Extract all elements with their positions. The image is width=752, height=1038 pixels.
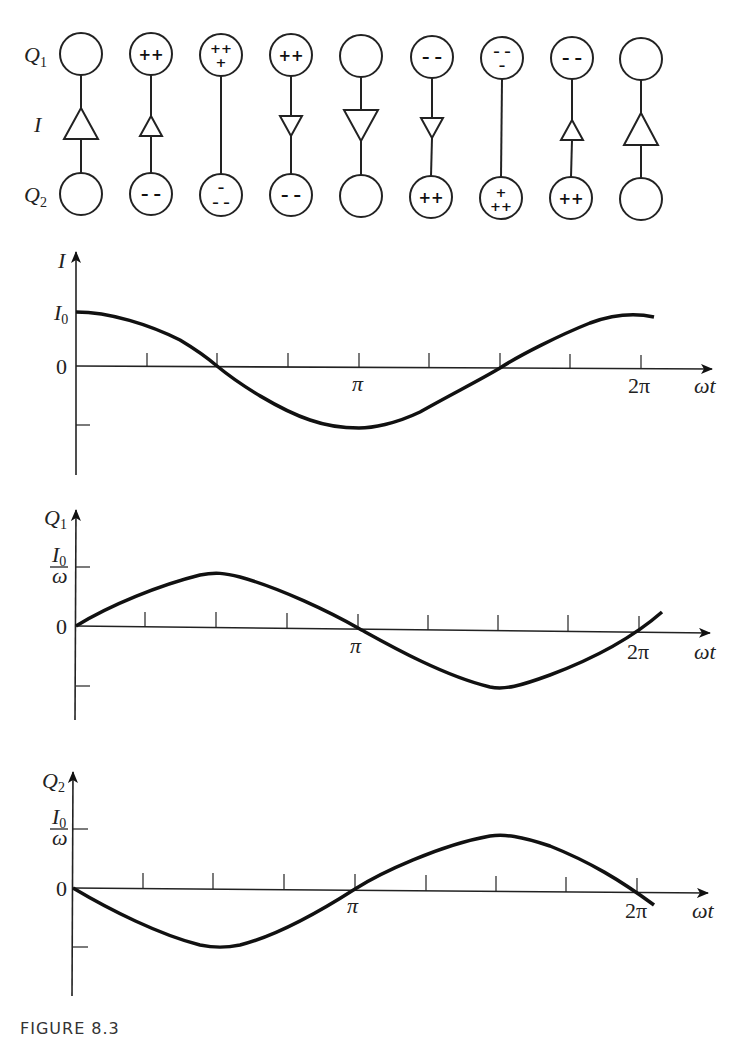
x-tick-2pi: 2π bbox=[625, 898, 647, 923]
q2-charge-col2: – – bbox=[141, 185, 161, 203]
x-axis-label: ωt bbox=[694, 373, 717, 398]
plot-q2: Q2 I0 ω 0 π 2π ωt bbox=[42, 768, 715, 996]
y-axis-label-q1: Q1 bbox=[44, 505, 67, 532]
diagram-column-1 bbox=[60, 33, 102, 215]
q1-charge-col2: ++ bbox=[138, 46, 163, 64]
x-axis-label: ωt bbox=[694, 639, 717, 664]
q2-charge-col3: – bbox=[218, 180, 225, 195]
q2-charge-col7-b: ++ bbox=[490, 199, 512, 214]
q2-charge-col3-b: – – bbox=[212, 195, 230, 210]
x-tick-pi: π bbox=[350, 633, 362, 658]
q1-charge-col3-b: + bbox=[216, 55, 227, 70]
diagram-column-5 bbox=[340, 35, 382, 217]
current-curve bbox=[76, 312, 654, 428]
y-tick-zero: 0 bbox=[56, 614, 67, 639]
q1-charge-col7-b: – bbox=[499, 58, 506, 73]
current-arrow-up-small-icon bbox=[140, 116, 162, 136]
current-arrow-up-small-icon bbox=[561, 120, 583, 140]
current-arrow-down-small-icon bbox=[421, 118, 443, 138]
row-label-current: I bbox=[33, 112, 43, 137]
y-tick-i0-over-omega-den: ω bbox=[52, 563, 68, 588]
q1-charge-col3: ++ bbox=[210, 41, 232, 56]
row-label-q1: Q1 bbox=[24, 42, 47, 70]
y-tick-i0: I0 bbox=[53, 300, 68, 327]
q1-charge-col7: – – bbox=[493, 44, 511, 59]
y-axis-label-q2: Q2 bbox=[42, 768, 65, 795]
q2-charge-col6: ++ bbox=[418, 189, 443, 207]
current-arrow-up-large-icon bbox=[64, 108, 98, 139]
x-tick-pi: π bbox=[352, 371, 364, 396]
q1-curve bbox=[76, 573, 662, 688]
y-axis-label-current: I bbox=[57, 248, 67, 273]
y-tick-zero: 0 bbox=[56, 354, 67, 379]
q2-charge-col8: ++ bbox=[558, 190, 583, 208]
charge-oscillation-diagram: Q1 I Q2 bbox=[24, 33, 662, 220]
diagram-column-9 bbox=[620, 38, 662, 220]
q2-charge-col4: – – bbox=[281, 186, 301, 204]
x-tick-pi: π bbox=[347, 893, 359, 918]
q1-charge-col4: ++ bbox=[278, 47, 303, 65]
q2-charge-col7: + bbox=[496, 185, 507, 200]
current-arrow-down-small-icon bbox=[280, 116, 302, 136]
q1-charge-col6: – – bbox=[422, 48, 442, 66]
y-tick-zero: 0 bbox=[56, 876, 67, 901]
row-label-q2: Q2 bbox=[24, 182, 47, 210]
plot-q1: Q1 I0 ω 0 π 2π ωt bbox=[44, 505, 717, 720]
x-tick-2pi: 2π bbox=[627, 639, 649, 664]
figure-caption: FIGURE 8.3 bbox=[20, 1019, 120, 1038]
q1-charge-col8: – – bbox=[562, 49, 582, 67]
plot-current: I I0 0 π 2π ωt bbox=[53, 248, 717, 475]
current-arrow-up-large-icon bbox=[624, 113, 658, 145]
current-arrow-down-large-icon bbox=[344, 110, 378, 141]
y-tick-i0-over-omega-den: ω bbox=[52, 825, 68, 850]
x-axis-label: ωt bbox=[692, 898, 715, 923]
x-tick-2pi: 2π bbox=[628, 373, 650, 398]
